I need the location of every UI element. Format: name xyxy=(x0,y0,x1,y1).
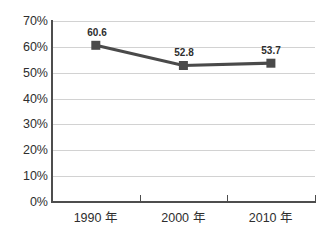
data-series xyxy=(0,0,330,235)
series-marker-2 xyxy=(266,59,275,68)
data-label-0: 60.6 xyxy=(87,27,106,38)
series-marker-1 xyxy=(179,61,188,70)
data-label-2: 53.7 xyxy=(261,45,280,56)
line-chart: 70% 60% 50% 40% 30% 20% 10% 0% 1990 年 20… xyxy=(0,0,330,235)
series-marker-0 xyxy=(91,41,100,50)
data-label-1: 52.8 xyxy=(174,47,193,58)
